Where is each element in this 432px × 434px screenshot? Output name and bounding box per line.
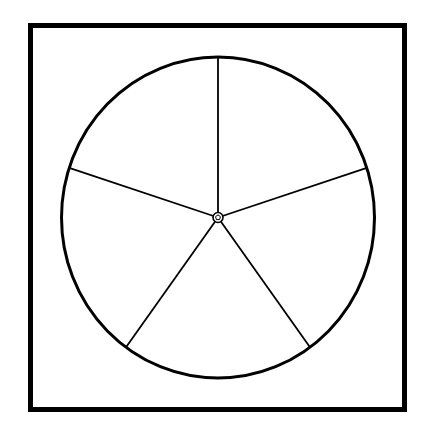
spoke-2 [218,168,367,218]
spokes-group [69,57,367,347]
spoke-3 [218,218,310,348]
pie-diagram [0,0,432,434]
center-hub-icon [213,213,223,223]
spoke-4 [126,218,218,348]
spoke-5 [69,168,218,218]
